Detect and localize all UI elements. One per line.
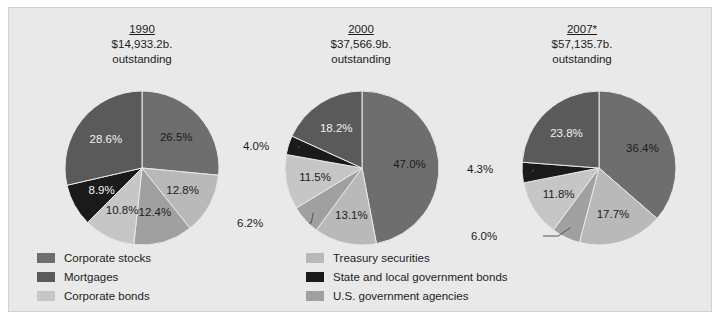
pie-slice-label: 12.8% [166,184,199,196]
pie-amount-label: $37,566.9b. [261,37,461,52]
pie-chart-2000: 47.0%13.1%6.2%11.5%4.0%18.2% [237,76,467,248]
pie-outstanding-label: outstanding [482,52,682,67]
pie-slice-label: 26.5% [160,131,193,143]
legend-swatch-icon [306,253,324,263]
pie-slice-label: 13.1% [335,209,368,221]
pie-slice-label: 47.0% [393,158,426,170]
legend-item-us-gov-agencies: U.S. government agencies [306,288,508,304]
pie-outstanding-label: outstanding [42,52,242,67]
legend-item-state-local-bonds: State and local government bonds [306,269,508,285]
pie-header-2000: 2000 $37,566.9b. outstanding [261,22,461,67]
legend-label: Treasury securities [333,252,430,265]
pie-svg-2000: 47.0%13.1%6.2%11.5%4.0%18.2% [237,76,467,248]
legend-label: Corporate stocks [64,252,151,265]
pie-slice-label: 11.8% [543,188,575,200]
pie-slice-label: 12.4% [139,206,172,218]
pie-outstanding-label: outstanding [261,52,461,67]
legend-label: Corporate bonds [64,290,150,303]
pie-header-2007: 2007* $57,135.7b. outstanding [482,22,682,67]
legend-item-corporate-stocks: Corporate stocks [37,250,151,266]
pie-slice-label: 6.0% [471,230,497,242]
legend-label: State and local government bonds [333,271,508,284]
pie-svg-1990: 26.5%12.8%12.4%10.8%8.9%28.6% [47,76,247,248]
legend-label: U.S. government agencies [333,290,469,303]
pie-slice-label: 4.3% [467,163,493,175]
legend-swatch-icon [37,253,55,263]
pie-slices-2007 [522,91,676,245]
legend-swatch-icon [37,291,55,301]
legend-column-right: Treasury securities State and local gove… [306,250,508,307]
legend-item-treasury-securities: Treasury securities [306,250,508,266]
legend-column-left: Corporate stocks Mortgages Corporate bon… [37,250,151,307]
pie-chart-1990: 26.5%12.8%12.4%10.8%8.9%28.6% [47,76,247,248]
pie-year-label: 1990 [42,22,242,37]
pie-amount-label: $14,933.2b. [42,37,242,52]
legend-item-corporate-bonds: Corporate bonds [37,288,151,304]
pie-svg-2007: 36.4%17.7%6.0%11.8%4.3%23.8% [457,76,697,248]
chart-legend: Corporate stocks Mortgages Corporate bon… [9,250,711,310]
pie-amount-label: $57,135.7b. [482,37,682,52]
pie-slice-label: 18.2% [320,122,353,134]
legend-swatch-icon [306,291,324,301]
pie-slice-label: 10.8% [106,204,139,216]
legend-label: Mortgages [64,271,118,284]
pie-slice-label: 17.7% [597,208,630,220]
pie-slice-label: 36.4% [626,142,659,154]
pie-year-label: 2000 [261,22,461,37]
pie-slice-label: 28.6% [90,133,123,145]
pie-slice-label: 4.0% [243,140,269,152]
legend-swatch-icon [37,272,55,282]
pie-slice-label: 11.5% [299,171,331,183]
chart-panel: 1990 $14,933.2b. outstanding 2000 $37,56… [8,7,712,312]
pie-chart-2007: 36.4%17.7%6.0%11.8%4.3%23.8% [457,76,697,248]
pie-slice-label: 6.2% [237,217,263,229]
pie-slice-label: 23.8% [550,127,583,139]
pie-slice-label: 8.9% [88,184,114,196]
pie-slices-1990 [65,91,219,245]
pie-header-1990: 1990 $14,933.2b. outstanding [42,22,242,67]
legend-item-mortgages: Mortgages [37,269,151,285]
pie-year-label: 2007* [482,22,682,37]
legend-swatch-icon [306,272,324,282]
